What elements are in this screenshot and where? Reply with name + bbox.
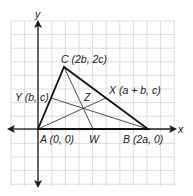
point-label-b: B (2a, 0) (123, 133, 163, 145)
point-label-c: C (2b, 2c) (61, 53, 107, 65)
x-axis-label: x (177, 123, 184, 135)
point-label-z: Z (83, 91, 91, 103)
point-label-w: W (89, 133, 100, 145)
point-label-y: Y (b, c) (15, 91, 49, 103)
point-label-a: A (0, 0) (39, 133, 74, 145)
point-label-x: X (a + b, c) (108, 84, 161, 96)
y-axis-label: y (34, 8, 41, 20)
coordinate-diagram: x y C (2b, 2c) X (a + b, c) Y (b, c) Z A… (0, 0, 193, 196)
